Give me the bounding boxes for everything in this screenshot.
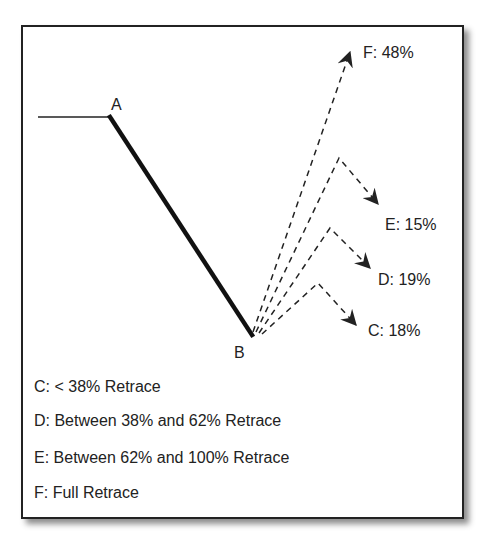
legend-item-f: F: Full Retrace: [34, 484, 139, 502]
path-f-line: [253, 52, 350, 332]
legend-item-d: D: Between 38% and 62% Retrace: [34, 412, 281, 430]
outcome-c-label: C: 18%: [368, 322, 420, 339]
outcome-d-label: D: 19%: [378, 271, 430, 288]
legend-item-c: C: < 38% Retrace: [34, 378, 161, 396]
point-b-label: B: [234, 344, 245, 361]
point-a-label: A: [111, 96, 122, 113]
path-d-line: [259, 228, 370, 333]
move-a-b-line: [110, 117, 252, 335]
legend-item-e: E: Between 62% and 100% Retrace: [34, 449, 289, 467]
outcome-f-label: F: 48%: [363, 44, 414, 61]
outcome-e-label: E: 15%: [385, 216, 437, 233]
path-e-line: [256, 158, 378, 332]
